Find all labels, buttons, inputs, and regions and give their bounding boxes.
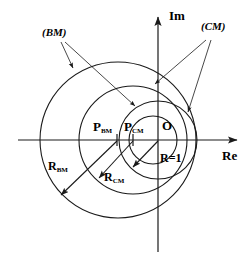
im-axis-label: Im xyxy=(169,9,185,22)
p-cm-label: PCM xyxy=(124,120,144,135)
leader-cm-to-right xyxy=(188,40,211,112)
unit-radius-label: R=1 xyxy=(160,152,182,164)
bm-set-label: (BM) xyxy=(42,27,66,38)
r-cm-label: RCM xyxy=(104,171,124,185)
cm-set-label: (CM) xyxy=(201,21,225,32)
p-bm-label: PBM xyxy=(93,120,112,135)
leader-bm-to-circle xyxy=(61,42,73,68)
leader-cm-to-upper xyxy=(155,40,206,84)
p-bm-subscript: BM xyxy=(101,127,112,135)
re-axis-label: Re xyxy=(222,149,237,162)
r-cm-subscript: CM xyxy=(113,177,125,185)
p-bm-base: P xyxy=(93,119,101,134)
r-cm-base: R xyxy=(104,170,113,184)
diagram-canvas: (BM) (CM) Im Re PBM PCM O R=1 RBM RCM xyxy=(0,0,252,261)
r-bm-subscript: BM xyxy=(57,166,68,174)
r-bm-base: R xyxy=(48,159,57,173)
r-bm-label: RBM xyxy=(48,160,68,174)
p-cm-subscript: CM xyxy=(132,127,144,135)
p-cm-base: P xyxy=(124,119,132,134)
origin-label: O xyxy=(162,119,172,132)
